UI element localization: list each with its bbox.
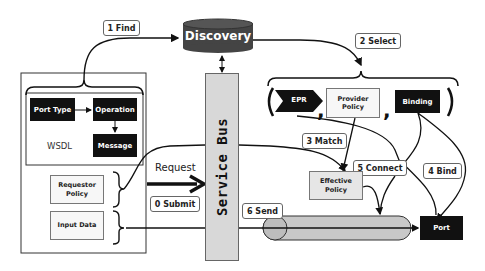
port-type-node: Port Type: [30, 98, 75, 121]
step-bind-label: 4 Bind: [423, 163, 462, 179]
effective-policy-node: Effective Policy: [309, 171, 363, 200]
step-send-label: 6 Send: [242, 203, 283, 219]
step-select-label: 2 Select: [355, 33, 401, 49]
discovery-label: Discovery: [183, 29, 253, 43]
discovery-node: Discovery: [183, 18, 253, 54]
service-bus-label: Service Bus: [214, 118, 230, 216]
binding-node: Binding: [395, 90, 440, 113]
step-submit-label: 0 Submit: [150, 196, 200, 212]
service-bus: Service Bus: [205, 73, 239, 261]
operation-node: Operation: [93, 98, 137, 121]
wsdl-label: WSDL: [47, 141, 72, 151]
input-data-node: Input Data: [50, 211, 104, 240]
separator-2: ,: [383, 98, 391, 122]
epr-node: EPR: [275, 90, 323, 112]
step-find-label: 1 Find: [103, 20, 140, 36]
message-node: Message: [93, 134, 137, 157]
port-node: Port: [420, 216, 463, 240]
requestor-policy-node: Requestor Policy: [50, 175, 104, 204]
request-label: Request: [155, 162, 196, 173]
separator-1: ,: [317, 98, 325, 122]
step-match-label: 3 Match: [302, 133, 347, 149]
epr-label: EPR: [285, 96, 313, 104]
provider-policy-node: Provider Policy: [326, 88, 380, 118]
